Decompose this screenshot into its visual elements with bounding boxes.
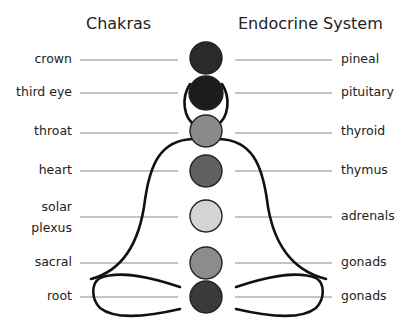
torso-left-outline <box>91 139 193 279</box>
label-throat: throat <box>34 123 72 138</box>
torso-right-outline <box>219 139 326 279</box>
right-leg-outline <box>236 275 323 316</box>
label-root: root <box>47 288 72 303</box>
label-thyroid: thyroid <box>341 123 385 138</box>
circle-throat <box>190 115 222 147</box>
label-crown: crown <box>34 51 72 66</box>
label-gonads-sacral: gonads <box>341 254 387 269</box>
circle-root <box>190 281 222 313</box>
chakras-heading: Chakras <box>86 14 151 33</box>
chakra-endocrine-diagram: Chakras Endocrine System crown third eye… <box>0 0 409 334</box>
label-plexus: plexus <box>31 220 72 235</box>
label-heart: heart <box>39 162 72 177</box>
label-gonads-root: gonads <box>341 288 387 303</box>
endocrine-heading: Endocrine System <box>238 14 383 33</box>
chakra-circles <box>189 42 223 313</box>
label-pineal: pineal <box>341 51 379 66</box>
label-sacral: sacral <box>35 254 72 269</box>
label-solar: solar <box>42 199 72 214</box>
circle-heart <box>190 155 222 187</box>
circle-solar-plexus <box>190 200 222 232</box>
label-adrenals: adrenals <box>341 208 395 223</box>
circle-sacral <box>190 247 222 279</box>
label-third-eye: third eye <box>16 84 72 99</box>
left-leg-outline <box>93 275 180 316</box>
circle-third-eye <box>189 76 223 110</box>
label-pituitary: pituitary <box>341 84 394 99</box>
left-connector-lines <box>80 60 178 297</box>
right-connector-lines <box>235 60 332 297</box>
circle-crown <box>190 42 222 74</box>
label-thymus: thymus <box>341 162 388 177</box>
